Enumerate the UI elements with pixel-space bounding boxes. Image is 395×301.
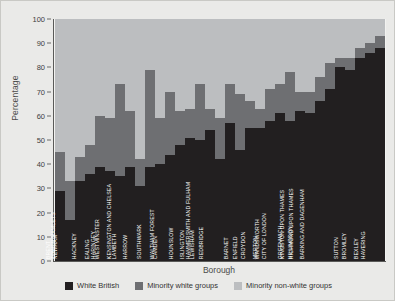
bar-column[interactable]: CAMDEN — [165, 19, 174, 261]
bar-column[interactable]: SUTTON — [345, 19, 354, 261]
bar-column[interactable]: GREENWICH — [295, 19, 304, 261]
bar-segment-minority-non-white — [175, 19, 184, 111]
bar-segment-minority-non-white — [105, 19, 114, 118]
bar-column[interactable]: HARROW — [135, 19, 144, 261]
y-axis-tick-mark — [47, 236, 51, 237]
bar-segment-white-british: BARNET — [235, 150, 244, 261]
bar-segment-minority-non-white — [335, 19, 344, 58]
bar-segment-white-british: BRENT — [55, 191, 64, 261]
bar-segment-white-british: SUTTON — [345, 70, 354, 261]
bar-segment-minority-non-white — [275, 19, 284, 84]
bar-column[interactable]: BARKING AND DAGENHAM — [335, 19, 344, 261]
bar-column[interactable]: HAVERING — [375, 19, 384, 261]
bar-segment-white-british: BARKING AND DAGENHAM — [335, 67, 344, 261]
bar-column[interactable]: WALTHAM FOREST — [175, 19, 184, 261]
legend-item[interactable]: Minority white groups — [135, 281, 218, 290]
bar-segment-minority-non-white — [115, 19, 124, 84]
bar-segment-white-british: WESTMINSTER — [115, 176, 124, 261]
bar-column[interactable]: KENSINGTON AND CHELSEA — [145, 19, 154, 261]
bar-segment-white-british: HOUNSLOW — [185, 138, 194, 261]
bar-column[interactable]: LEWISHAM — [205, 19, 214, 261]
bar-segment-minority-white — [115, 84, 124, 176]
y-axis-title: Percentage — [10, 48, 20, 148]
bar-column[interactable]: TOWER HAMLETS — [75, 19, 84, 261]
y-axis-tick-label: 20 — [37, 208, 45, 217]
chart-figure: Percentage 0102030405060708090100 BRENTN… — [0, 0, 395, 301]
y-axis-tick-mark — [47, 115, 51, 116]
bar-column[interactable]: HILLINGDON — [305, 19, 314, 261]
bar-column[interactable]: RICHMOND UPON THAMES — [325, 19, 334, 261]
bar-column[interactable]: CITY OF LONDON — [285, 19, 294, 261]
bar-segment-minority-non-white — [265, 19, 274, 89]
bar-segment-minority-white — [145, 70, 154, 167]
bar-column[interactable]: REDBRIDGE — [215, 19, 224, 261]
bar-column[interactable]: WESTMINSTER — [115, 19, 124, 261]
y-axis-tick-label: 100 — [32, 15, 45, 24]
bar-segment-minority-white — [305, 92, 314, 114]
bar-column[interactable]: ISLINGTON — [195, 19, 204, 261]
bar-segment-minority-white — [315, 77, 324, 101]
y-axis-tick-label: 50 — [37, 136, 45, 145]
bar-segment-minority-white — [275, 84, 284, 113]
bar-column[interactable]: ENFIELD — [245, 19, 254, 261]
bar-group: BRENTNEWHAMTOWER HAMLETSHACKNEYEALINGHAR… — [54, 19, 386, 261]
bar-segment-white-british: HILLINGDON — [305, 113, 314, 261]
bar-segment-minority-non-white — [65, 19, 74, 181]
bar-segment-minority-white — [195, 84, 204, 140]
bar-column[interactable]: WANDSWORTH — [275, 19, 284, 261]
bar-column[interactable]: HOUNSLOW — [185, 19, 194, 261]
bar-column[interactable]: HAMMERSMITH AND FULHAM — [225, 19, 234, 261]
bar-segment-minority-white — [245, 101, 254, 128]
bar-segment-minority-non-white — [235, 19, 244, 94]
bar-column[interactable]: KINGSTON UPON THAMES — [315, 19, 324, 261]
bar-column[interactable]: BARNET — [235, 19, 244, 261]
bar-column[interactable]: CROYDON — [255, 19, 264, 261]
bar-segment-minority-non-white — [305, 19, 314, 92]
bar-segment-minority-non-white — [245, 19, 254, 101]
y-axis-tick-mark — [47, 164, 51, 165]
bar-column[interactable]: EALING — [95, 19, 104, 261]
y-axis-tick-mark — [47, 19, 51, 20]
bar-segment-minority-white — [325, 63, 334, 90]
legend-swatch-icon — [135, 282, 143, 290]
bar-segment-minority-non-white — [345, 19, 354, 58]
bar-column[interactable]: HACKNEY — [85, 19, 94, 261]
bar-segment-minority-non-white — [315, 19, 324, 77]
bar-segment-white-british: ISLINGTON — [195, 140, 204, 261]
bar-column[interactable]: BEXLEY — [365, 19, 374, 261]
bar-column[interactable]: SOUTHWARK — [155, 19, 164, 261]
bar-segment-white-british: RICHMOND UPON THAMES — [325, 89, 334, 261]
bar-column[interactable]: NEWHAM — [65, 19, 74, 261]
x-axis-title: Borough — [53, 265, 385, 275]
y-axis-tick-label: 60 — [37, 111, 45, 120]
legend-swatch-icon — [234, 282, 242, 290]
bar-column[interactable]: MERTON — [265, 19, 274, 261]
bar-segment-minority-white — [365, 43, 374, 53]
y-axis-tick-label: 40 — [37, 160, 45, 169]
legend-item[interactable]: Minority non-white groups — [234, 281, 332, 290]
bar-segment-minority-white — [205, 109, 214, 131]
bar-column[interactable]: BROMLEY — [355, 19, 364, 261]
bar-segment-white-british: LEWISHAM — [205, 130, 214, 261]
bar-column[interactable]: BRENT — [55, 19, 64, 261]
bar-segment-minority-white — [155, 118, 164, 164]
y-axis-tick-label: 0 — [41, 257, 45, 266]
bar-segment-minority-non-white — [365, 19, 374, 43]
bar-column[interactable]: LAMBETH — [125, 19, 134, 261]
legend-item[interactable]: White British — [65, 281, 119, 290]
bar-segment-white-british: BEXLEY — [365, 53, 374, 261]
chart-legend: White BritishMinority white groupsMinori… — [1, 281, 395, 290]
bar-column[interactable]: HARINGEY — [105, 19, 114, 261]
bar-segment-white-british: SOUTHWARK — [155, 164, 164, 261]
bar-segment-white-british: CITY OF LONDON — [285, 121, 294, 261]
bar-segment-minority-white — [175, 111, 184, 145]
bar-segment-minority-non-white — [165, 19, 174, 92]
bar-segment-minority-non-white — [135, 19, 144, 159]
bar-segment-minority-white — [295, 92, 304, 111]
legend-label: White British — [77, 281, 119, 290]
bar-segment-white-british: BROMLEY — [355, 58, 364, 261]
y-axis-tick-mark — [47, 67, 51, 68]
y-axis-tick-label: 70 — [37, 87, 45, 96]
bar-segment-minority-white — [55, 152, 64, 191]
bar-segment-minority-white — [335, 58, 344, 68]
